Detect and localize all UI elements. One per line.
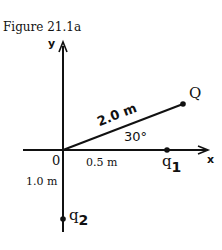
angle-label: 30° bbox=[124, 130, 147, 143]
q1-label: q1 bbox=[162, 154, 181, 169]
y-axis-label: y bbox=[48, 38, 55, 49]
q1-subscript: 1 bbox=[172, 159, 182, 175]
q2-subscript: 2 bbox=[79, 212, 89, 228]
origin-label: 0 bbox=[52, 154, 60, 167]
x-axis-label: x bbox=[207, 154, 214, 165]
diagram-canvas bbox=[0, 0, 222, 250]
q1-letter: q bbox=[162, 152, 172, 170]
point-q bbox=[180, 101, 186, 107]
q2-letter: q bbox=[69, 206, 79, 224]
q1-distance-label: 0.5 m bbox=[86, 157, 117, 168]
q2-label: q2 bbox=[69, 208, 88, 223]
point-q2 bbox=[60, 216, 66, 222]
q2-distance-label: 1.0 m bbox=[26, 176, 57, 187]
figure-caption: Figure 21.1a bbox=[3, 21, 81, 33]
q-label: Q bbox=[189, 86, 201, 101]
